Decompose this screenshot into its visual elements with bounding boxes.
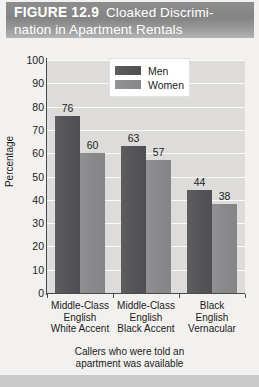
figure-number: FIGURE 12.9 (14, 5, 99, 20)
y-axis-tick-label: 50 (2, 171, 44, 183)
caption-line1: Callers who were told an (0, 346, 259, 358)
category-label-line: Vernacular (170, 323, 254, 335)
x-axis-category-labels: Middle-ClassEnglishWhite AccentMiddle-Cl… (47, 298, 245, 344)
bar-value-label: 60 (87, 139, 99, 151)
gridline (47, 107, 245, 108)
chart: Percentage 766063574438 0102030405060708… (0, 38, 259, 375)
y-axis-tick-label: 40 (2, 194, 44, 206)
x-axis-tick (113, 294, 114, 298)
legend-item-women: Women (115, 78, 184, 91)
category-label-line: English (170, 312, 254, 324)
y-axis-tick-labels: 0102030405060708090100 (0, 38, 44, 298)
bar-value-label: 63 (128, 132, 140, 144)
y-axis-tick-label: 0 (2, 287, 44, 299)
x-axis-category-label: BlackEnglishVernacular (170, 300, 254, 335)
figure-panel: FIGURE 12.9Cloaked Discrimi- nation in A… (0, 0, 259, 375)
legend-swatch-men (115, 66, 141, 75)
caption-line2: apartment was available (0, 358, 259, 370)
bar-men-2 (121, 146, 146, 293)
category-label-line: Black (170, 300, 254, 312)
x-axis-tick (47, 294, 48, 298)
y-axis-tick-label: 30 (2, 217, 44, 229)
bar-women-2 (146, 160, 171, 293)
x-axis-line (46, 293, 245, 294)
y-axis-tick-label: 70 (2, 124, 44, 136)
figure-title-line2: nation in Apartment Rentals (14, 22, 183, 37)
y-axis-tick-label: 100 (2, 54, 44, 66)
x-axis-tick (245, 294, 246, 298)
figure-header-line2: nation in Apartment Rentals (14, 21, 248, 38)
legend-swatch-women (115, 80, 141, 89)
y-axis-tick-label: 90 (2, 77, 44, 89)
figure-header: FIGURE 12.9Cloaked Discrimi- nation in A… (6, 2, 254, 38)
figure-header-line1: FIGURE 12.9Cloaked Discrimi- (14, 4, 248, 21)
bar-value-label: 44 (194, 176, 206, 188)
bar-women-3 (212, 204, 237, 293)
y-axis-tick-label: 80 (2, 101, 44, 113)
y-axis-line (46, 58, 47, 295)
figure-title-line1: Cloaked Discrimi- (106, 5, 213, 20)
legend: MenWomen (109, 58, 190, 97)
y-axis-tick-label: 60 (2, 147, 44, 159)
legend-label: Men (148, 65, 168, 77)
y-axis-tick-label: 20 (2, 240, 44, 252)
bar-women-1 (80, 153, 105, 293)
chart-caption: Callers who were told an apartment was a… (0, 346, 259, 370)
bar-value-label: 57 (153, 146, 165, 158)
legend-item-men: Men (115, 64, 184, 77)
bar-men-1 (55, 116, 80, 293)
bar-value-label: 38 (219, 190, 231, 202)
legend-label: Women (148, 79, 184, 91)
bar-value-label: 76 (62, 102, 74, 114)
y-axis-tick-label: 10 (2, 264, 44, 276)
x-axis-tick (179, 294, 180, 298)
bar-men-3 (187, 190, 212, 293)
